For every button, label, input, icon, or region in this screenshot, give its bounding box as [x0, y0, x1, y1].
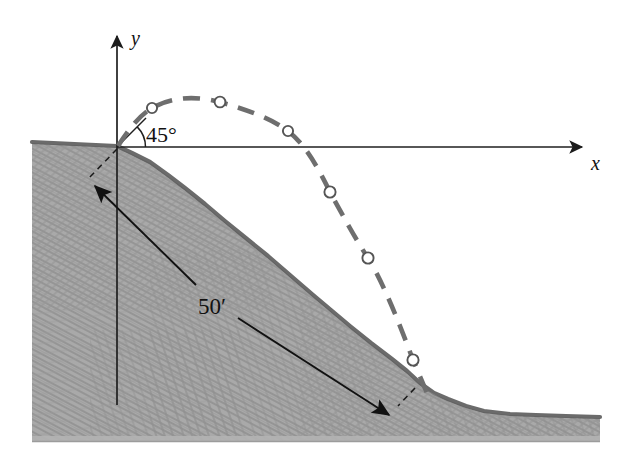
slope-distance-label: 50′	[198, 294, 226, 319]
launch-angle-arc	[137, 127, 145, 147]
trajectory-marker	[324, 186, 335, 197]
launch-angle-label: 45°	[146, 122, 177, 147]
trajectory-marker	[215, 97, 226, 108]
projectile-hillside-figure: y x 45°	[0, 0, 633, 469]
trajectory-marker	[147, 103, 157, 113]
x-axis-label: x	[590, 152, 600, 174]
trajectory-marker	[407, 354, 418, 365]
figure-canvas: y x 45°	[0, 0, 633, 469]
trajectory-marker	[283, 126, 293, 136]
y-axis-label: y	[129, 27, 140, 50]
trajectory-marker	[362, 252, 373, 263]
